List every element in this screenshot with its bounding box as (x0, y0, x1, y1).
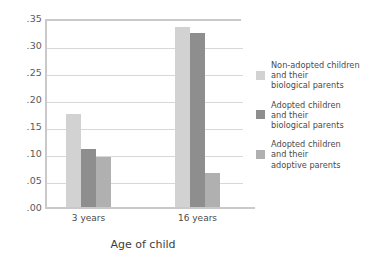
legend-label: Non-adopted children and their biologica… (271, 60, 360, 91)
bar (81, 149, 96, 208)
bar (205, 173, 220, 208)
y-axis-tick-label: .05 (2, 176, 42, 186)
legend-swatch (256, 150, 265, 159)
legend-label: Adopted children and their adoptive pare… (271, 139, 341, 170)
y-axis-tick-label: .20 (2, 95, 42, 105)
y-axis-tick-label: .10 (2, 149, 42, 159)
bar-chart: .35.30.25.20.15.10.05.00 Age of child No… (0, 0, 384, 265)
legend-item: Adopted children and their adoptive pare… (256, 139, 384, 170)
legend-label: Adopted children and their biological pa… (271, 100, 344, 131)
x-axis-tick-label: 16 years (158, 213, 238, 224)
legend-swatch (256, 71, 265, 80)
y-axis-tick-label: .15 (2, 122, 42, 132)
x-axis-tick-label: 3 years (49, 213, 129, 224)
y-axis-tick-label: .35 (2, 14, 42, 24)
x-axis-title: Age of child (45, 238, 241, 251)
bars-layer (45, 19, 241, 208)
bar (66, 114, 81, 209)
y-axis-tick-label: .00 (2, 203, 42, 213)
bar (175, 27, 190, 208)
legend-item: Adopted children and their biological pa… (256, 100, 384, 131)
legend-item: Non-adopted children and their biologica… (256, 60, 384, 91)
y-axis-tick-label: .30 (2, 41, 42, 51)
legend-swatch (256, 110, 265, 119)
y-axis: .35.30.25.20.15.10.05.00 (0, 0, 42, 265)
x-axis-baseline (45, 207, 255, 209)
bar (190, 33, 205, 209)
y-axis-tick-label: .25 (2, 68, 42, 78)
legend: Non-adopted children and their biologica… (256, 60, 384, 179)
bar (96, 157, 111, 208)
